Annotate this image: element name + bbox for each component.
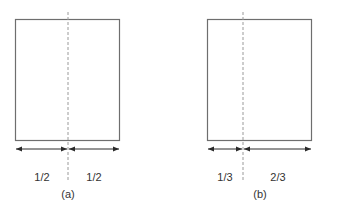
- left-label-a: 1/2: [34, 171, 49, 183]
- left-label-b: 1/3: [217, 171, 232, 183]
- caption-b: (b): [253, 188, 266, 200]
- right-label-b: 2/3: [270, 171, 285, 183]
- rectangle-b: [208, 20, 312, 141]
- caption-a: (a): [61, 188, 74, 200]
- split-diagram: 1/2 1/2 (a) 1/3 2/3 (b): [0, 0, 342, 212]
- panel-a: 1/2 1/2 (a): [16, 12, 120, 200]
- right-label-a: 1/2: [86, 171, 101, 183]
- panel-b: 1/3 2/3 (b): [208, 12, 312, 200]
